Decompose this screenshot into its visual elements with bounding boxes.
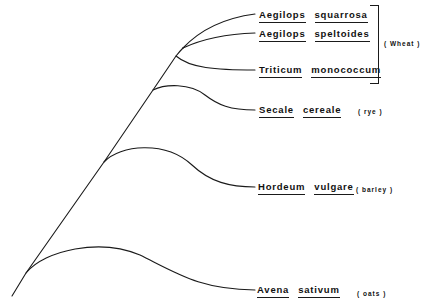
branch-aegilops-speltoides [183, 33, 255, 48]
common-name-barley: ( barley ) [356, 186, 393, 194]
species-name: squarrosa [315, 9, 368, 23]
common-name-rye: ( rye ) [358, 108, 383, 116]
branch-aegilops-squarrosa [183, 14, 255, 48]
species-name: vulgare [314, 181, 353, 195]
branch-hordeum-vulgare [104, 148, 255, 187]
species-name: sativum [298, 284, 340, 298]
taxon-label-hordeum-vulgare: Hordeumvulgare [258, 181, 354, 195]
genus-name: Aegilops [259, 28, 306, 42]
phylogenetic-tree [0, 0, 423, 303]
genus-name: Avena [257, 284, 289, 298]
taxon-label-secale-cereale: Secalecereale [259, 104, 341, 118]
common-name-oats: ( oats ) [357, 290, 386, 298]
genus-name: Hordeum [258, 181, 305, 195]
group-label-wheat: ( Wheat ) [384, 40, 420, 48]
taxon-label-triticum-monococcum: Triticummonococcum [259, 64, 381, 78]
taxon-label-avena-sativum: Avenasativum [257, 284, 340, 298]
species-name: speltoides [315, 28, 370, 42]
branch-avena-sativum [26, 247, 255, 290]
taxon-label-aegilops-speltoides: Aegilopsspeltoides [259, 28, 370, 42]
wheat-group-bracket [370, 5, 379, 84]
genus-name: Triticum [259, 64, 302, 78]
species-name: cereale [303, 104, 341, 118]
branch-triticum-monococcum [176, 56, 255, 70]
genus-name: Aegilops [259, 9, 306, 23]
taxon-label-aegilops-squarrosa: Aegilopssquarrosa [259, 9, 368, 23]
trunk-branch [12, 48, 183, 296]
genus-name: Secale [259, 104, 294, 118]
branch-secale-cereale [153, 86, 255, 110]
